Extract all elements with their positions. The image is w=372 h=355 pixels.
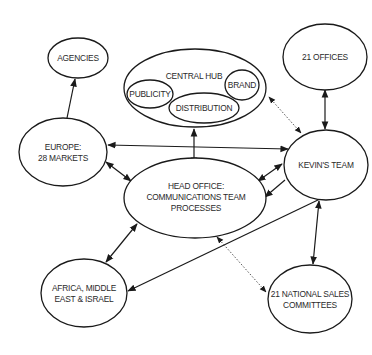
publicity-label: PUBLICITY <box>129 89 171 99</box>
edge-kevins-team-head-office-both <box>258 164 282 181</box>
node-brand: BRAND <box>225 70 259 100</box>
edge-head-office-sales-committees <box>217 237 266 292</box>
central-hub-label: CENTRAL HUB <box>166 71 223 81</box>
node-europe: EUROPE: 28 MARKETS <box>19 118 107 186</box>
europe-line2: 28 MARKETS <box>38 153 89 163</box>
node-sales-committees: 21 NATIONAL SALES COMMITTEES <box>268 265 352 333</box>
distribution-label: DISTRIBUTION <box>176 103 233 113</box>
edge-europe-head-office <box>106 162 131 181</box>
edge-kevins-team-sales-committees <box>313 201 319 264</box>
europe-line1: EUROPE: <box>45 142 81 152</box>
kevins-team-label: KEVIN'S TEAM <box>298 160 354 170</box>
edge-europe-agencies <box>67 79 75 118</box>
edge-europe-kevins-team <box>108 145 288 149</box>
node-21-offices: 21 OFFICES <box>283 24 367 90</box>
node-publicity: PUBLICITY <box>127 80 173 108</box>
africa-line1: AFRICA, MIDDLE <box>52 283 117 293</box>
head-office-line3: PROCESSES <box>171 203 222 213</box>
edge-central-hub-kevins-team <box>269 97 301 133</box>
edge-head-office-africa <box>106 224 137 262</box>
brand-label: BRAND <box>228 80 256 90</box>
agencies-label: AGENCIES <box>57 53 99 63</box>
node-kevins-team: KEVIN'S TEAM <box>284 130 368 200</box>
africa-line2: EAST & ISRAEL <box>54 294 114 304</box>
head-office-line1: HEAD OFFICE: <box>168 181 224 191</box>
node-africa: AFRICA, MIDDLE EAST & ISRAEL <box>41 259 127 327</box>
node-head-office: HEAD OFFICE: COMMUNICATIONS TEAM PROCESS… <box>124 158 266 238</box>
node-distribution: DISTRIBUTION <box>169 93 239 123</box>
sales-committees-line1: 21 NATIONAL SALES <box>271 289 350 299</box>
node-agencies: AGENCIES <box>48 38 108 78</box>
head-office-line2: COMMUNICATIONS TEAM <box>146 192 245 202</box>
sales-committees-line2: COMMITTEES <box>283 300 337 310</box>
offices-label: 21 OFFICES <box>302 52 349 62</box>
edge-kevins-team-head-office <box>265 180 285 197</box>
organization-diagram: AGENCIES CENTRAL HUB PUBLICITY BRAND DIS… <box>0 0 372 355</box>
